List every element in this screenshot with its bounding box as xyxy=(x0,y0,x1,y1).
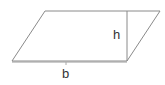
height-label: h xyxy=(113,27,120,42)
parallelogram-diagram: h b xyxy=(0,0,165,85)
parallelogram-shape xyxy=(12,11,160,61)
base-label: b xyxy=(62,66,69,81)
